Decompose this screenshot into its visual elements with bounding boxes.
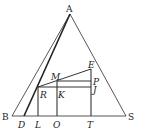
geometry-diagram: A B S D L O T R K J M P E xyxy=(0,0,141,140)
label-E: E xyxy=(87,60,95,70)
label-A: A xyxy=(65,4,73,14)
label-P: P xyxy=(92,77,100,87)
label-D: D xyxy=(17,120,25,130)
segment-AB xyxy=(12,14,70,116)
label-B: B xyxy=(2,112,9,122)
label-S: S xyxy=(128,112,134,122)
label-M: M xyxy=(50,72,61,82)
label-L: L xyxy=(34,120,41,130)
label-O: O xyxy=(53,120,61,130)
segment-RE xyxy=(38,69,91,87)
label-R: R xyxy=(39,90,47,100)
segment-AD xyxy=(24,14,70,116)
label-T: T xyxy=(87,120,94,130)
segment-AS xyxy=(70,14,126,116)
label-K: K xyxy=(57,90,66,100)
